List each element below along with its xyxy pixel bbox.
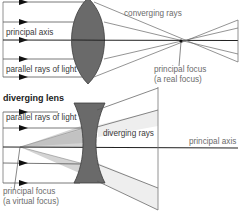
focus-leader-top <box>179 42 181 66</box>
label-diverging-rays: diverging rays <box>103 129 154 138</box>
label-parallel-rays-bottom: parallel rays of light <box>6 113 77 122</box>
lens-diagram: converging rays principal axis parallel … <box>0 0 241 213</box>
diverging-lens-heading: diverging lens <box>3 93 64 103</box>
virtual-ray-shade-lower <box>20 147 84 175</box>
label-virtual-focus-line1: principal focus <box>3 187 55 196</box>
label-principal-axis-bottom: principal axis <box>189 137 236 146</box>
principal-axis-bottom <box>3 147 238 148</box>
diverging-lens-section: diverging lens <box>3 87 238 210</box>
diverging-shade-lower <box>98 163 158 210</box>
label-real-focus-line1: principal focus <box>154 65 206 74</box>
principal-axis-top <box>3 40 238 41</box>
label-converging-rays: converging rays <box>124 9 182 18</box>
label-parallel-rays-top: parallel rays of light <box>6 65 77 74</box>
converging-lens-section: converging rays principal axis parallel … <box>3 0 238 84</box>
label-real-focus-line2: (a real focus) <box>154 75 202 84</box>
label-principal-axis-top: principal axis <box>6 28 53 37</box>
label-virtual-focus-line2: (a virtual focus) <box>3 197 59 206</box>
